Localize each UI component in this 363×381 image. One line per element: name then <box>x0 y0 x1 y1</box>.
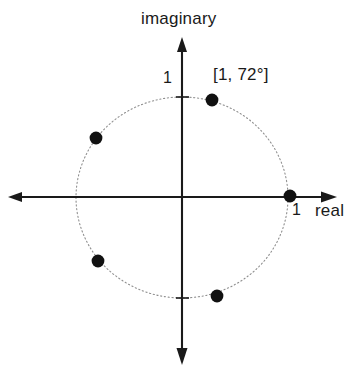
real-axis-left-arrowhead <box>8 192 22 202</box>
data-point-root-144deg <box>90 132 103 145</box>
data-point-root-72deg <box>206 94 219 107</box>
real-axis-label: real <box>315 202 344 219</box>
imaginary-axis-top-arrowhead <box>177 37 187 52</box>
polar-coordinate-annotation: [1, 72°] <box>213 66 269 83</box>
real-axis-tick-label: 1 <box>292 202 301 218</box>
data-point-root-288deg <box>211 290 224 303</box>
imaginary-axis-label: imaginary <box>141 10 217 27</box>
data-point-root-216deg <box>92 255 105 268</box>
complex-plane-canvas <box>0 0 363 381</box>
imaginary-axis-bottom-arrowhead <box>177 348 188 365</box>
imaginary-axis-tick-label: 1 <box>163 70 172 86</box>
complex-plane-figure: imaginary real [1, 72°] 1 1 <box>0 0 363 381</box>
